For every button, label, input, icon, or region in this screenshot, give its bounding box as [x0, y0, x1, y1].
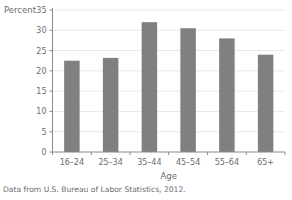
axes-group — [53, 8, 286, 152]
bar — [64, 61, 80, 152]
chart-canvas: 05101520253035 16–2425–3435–4445–5455–64… — [0, 0, 292, 200]
x-axis-category-label: 35–44 — [137, 158, 161, 167]
x-axis-title: Age — [161, 171, 177, 181]
y-axis-title: Percent — [4, 5, 37, 15]
y-axis-tick-label: 35 — [36, 6, 46, 15]
x-axis-category-label: 45–54 — [176, 158, 200, 167]
y-axis-tick-label: 0 — [41, 148, 46, 157]
bar — [258, 55, 274, 152]
x-axis-category-label: 25–34 — [98, 158, 122, 167]
x-axis-category-labels: 16–2425–3435–4445–5455–6465+ — [53, 152, 286, 167]
bar — [142, 22, 158, 152]
bar-chart-figure: 05101520253035 16–2425–3435–4445–5455–64… — [0, 0, 292, 200]
bars-group — [64, 22, 273, 152]
gridlines-group — [53, 10, 286, 132]
source-caption: Data from U.S. Bureau of Labor Statistic… — [3, 185, 186, 194]
y-axis-tick-label: 5 — [41, 128, 46, 137]
x-axis-category-label: 65+ — [257, 158, 274, 167]
y-axis-tick-labels: 05101520253035 — [36, 6, 52, 157]
bar — [180, 28, 196, 152]
y-axis-tick-label: 15 — [36, 87, 46, 96]
y-axis-tick-label: 10 — [36, 107, 46, 116]
x-axis-category-label: 55–64 — [215, 158, 239, 167]
y-axis-tick-label: 20 — [36, 67, 46, 76]
bar — [103, 58, 119, 152]
bar — [219, 38, 235, 152]
x-axis-category-label: 16–24 — [60, 158, 84, 167]
y-axis-tick-label: 25 — [36, 47, 46, 56]
y-axis-tick-label: 30 — [36, 26, 46, 35]
